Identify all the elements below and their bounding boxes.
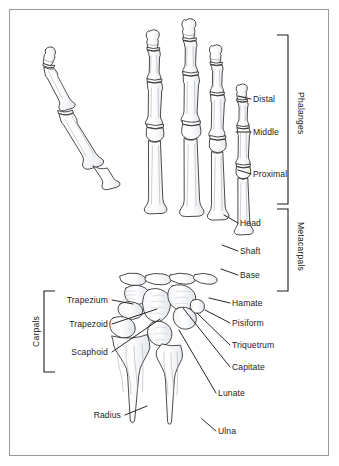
label-pisiform: Pisiform (232, 319, 264, 328)
ring-finger-bones (207, 45, 229, 220)
label-hamate: Hamate (232, 299, 263, 308)
leader-pisiform (205, 310, 230, 323)
label-capitate: Capitate (232, 363, 265, 372)
leader-lunate (179, 330, 216, 393)
label-head: Head (240, 219, 261, 228)
hand-skeleton-figure: Distal Middle Proximal Head Shaft Base H… (0, 0, 339, 466)
thumb-bones (43, 47, 120, 190)
label-scaphoid: Scaphoid (0, 348, 108, 357)
label-trapezoid: Trapezoid (0, 320, 108, 329)
bracket-label-carpals: Carpals (32, 316, 41, 347)
label-ulna: Ulna (218, 427, 236, 436)
leader-hamate (209, 298, 230, 303)
leader-shaft (222, 245, 238, 251)
label-base: Base (240, 271, 260, 280)
label-distal: Distal (253, 95, 275, 104)
bone-outlines (43, 18, 253, 424)
index-finger-bones (144, 30, 167, 214)
label-radius: Radius (0, 411, 121, 420)
leader-ulna (202, 419, 216, 431)
carpal-bones (110, 285, 205, 346)
label-middle: Middle (253, 128, 279, 137)
label-triquetrum: Triquetrum (232, 341, 274, 350)
label-lunate: Lunate (218, 389, 245, 398)
label-shaft: Shaft (240, 247, 261, 256)
little-finger-bones (234, 84, 253, 235)
bracket-label-metacarpals: Metacarpals (296, 222, 305, 271)
label-trapezium: Trapezium (0, 296, 108, 305)
bracket-label-phalanges: Phalanges (296, 92, 305, 134)
leader-base (221, 269, 238, 275)
pisiform-bone (190, 299, 204, 313)
leader-triquetrum (197, 313, 230, 345)
forearm-bones (112, 335, 183, 425)
middle-finger-bones (180, 18, 205, 216)
metacarpal-bases (120, 273, 217, 286)
capitate-bone (142, 288, 170, 321)
label-proximal: Proximal (253, 170, 287, 179)
metacarpals-bracket (277, 209, 288, 291)
leader-capitate (183, 308, 230, 367)
hand-bones-illustration (0, 0, 339, 466)
